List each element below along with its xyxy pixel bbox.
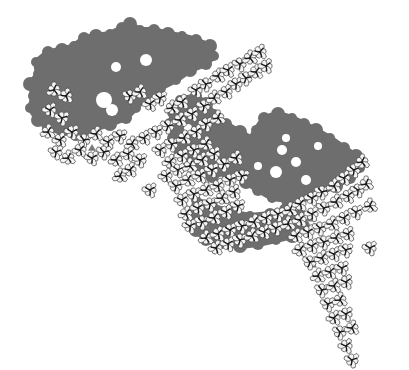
shadow-bump bbox=[123, 17, 137, 31]
shadow-bump bbox=[245, 135, 255, 145]
shadow-bump bbox=[25, 103, 35, 113]
shadow-bump bbox=[28, 90, 40, 102]
shadow-bump bbox=[78, 32, 90, 44]
shadow-bump bbox=[190, 34, 202, 46]
shadow-bump bbox=[252, 184, 264, 196]
shadow-bump bbox=[171, 75, 181, 85]
shadow-bump bbox=[209, 51, 219, 61]
shadow-bump bbox=[258, 112, 270, 124]
shadow-bump bbox=[42, 46, 54, 58]
shadow-bump bbox=[338, 142, 350, 154]
shadow-bump bbox=[325, 133, 335, 143]
shadow-bump bbox=[271, 107, 285, 121]
shadow-bump bbox=[148, 24, 160, 36]
shadow-bump bbox=[183, 63, 197, 77]
shadow-bump bbox=[298, 118, 310, 130]
shadow-bump bbox=[267, 193, 277, 203]
shadow-bump bbox=[89, 29, 103, 43]
shadow-bump bbox=[31, 113, 45, 127]
shadow-bump bbox=[31, 57, 41, 67]
shadow-bump bbox=[233, 125, 247, 139]
shadow-bump bbox=[120, 112, 132, 124]
shadow-bump bbox=[203, 39, 217, 53]
shadow-bump bbox=[287, 113, 297, 123]
shadow-bump bbox=[105, 29, 115, 39]
triskelion-lattice-figure bbox=[0, 0, 409, 370]
shadow-bump bbox=[33, 69, 43, 79]
shadow-bump bbox=[200, 58, 212, 70]
shadow-bump bbox=[103, 117, 117, 131]
shadow-bump bbox=[161, 27, 175, 41]
lattice-diagram bbox=[0, 0, 409, 370]
shadow-bump bbox=[251, 125, 261, 135]
shadow-bump bbox=[271, 235, 281, 245]
shadow-bump bbox=[69, 41, 79, 51]
shadow-bump bbox=[309, 123, 323, 137]
shadow-bump bbox=[177, 31, 187, 41]
shadow-bump bbox=[131, 103, 141, 113]
shadow-bump bbox=[23, 77, 37, 91]
shadow-bump bbox=[135, 25, 145, 35]
shadow-bump bbox=[55, 43, 69, 57]
